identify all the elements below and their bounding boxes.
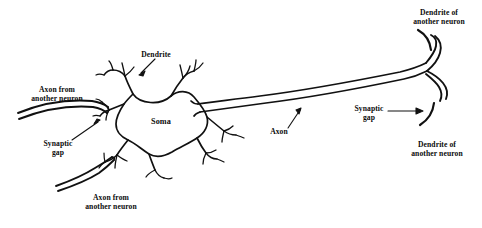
- leader-arrow-axon: [296, 108, 301, 114]
- label-dendrite: Dendrite: [130, 50, 182, 59]
- dendrite-branch: [222, 131, 224, 142]
- dendrite-branch: [236, 135, 244, 138]
- dendrite-branch: [164, 178, 172, 179]
- dendrite-branch: [180, 65, 183, 78]
- leader-arrow-synaptic-gap-right: [416, 108, 423, 114]
- dendrite-branch: [206, 150, 216, 153]
- label-synaptic-gap-left: Synaptic gap: [30, 139, 86, 158]
- dendrite-branch: [93, 115, 100, 116]
- target-dendrite-arc: [418, 30, 431, 50]
- label-dendrite-of-another-neuron-lower: Dendrite of another neuron: [394, 140, 480, 159]
- target-dendrite-arc: [420, 103, 434, 125]
- incoming-axon: [58, 160, 114, 191]
- dendrite-branch: [146, 170, 155, 177]
- dendrite-branch: [217, 159, 224, 162]
- dendrite-branch: [104, 70, 113, 75]
- dendrite-branch: [183, 66, 190, 78]
- label-soma: Soma: [140, 117, 182, 126]
- dendrite-branch: [203, 153, 206, 164]
- label-synaptic-gap-right: Synaptic gap: [344, 104, 394, 123]
- dendrite-branch: [96, 74, 104, 75]
- label-axon-from-another-neuron-upper: Axon from another neuron: [14, 85, 100, 104]
- dendrite-branch: [113, 70, 125, 76]
- dendrite-branch: [104, 153, 105, 162]
- dendrite-branch: [197, 138, 206, 153]
- label-dendrite-of-another-neuron-upper: Dendrite of another neuron: [396, 8, 482, 27]
- label-axon-from-another-neuron-lower: Axon from another neuron: [68, 193, 154, 212]
- neuron-diagram: Dendrite Soma Axon Axon from another neu…: [0, 0, 482, 228]
- leader-arrow-synaptic-gap-left: [72, 122, 98, 140]
- dendrite-branch: [224, 131, 236, 135]
- label-axon: Axon: [258, 127, 300, 136]
- dendrite-branch: [109, 61, 113, 70]
- axon-tube: [198, 63, 426, 104]
- dendrite-branch: [125, 67, 134, 76]
- dendrite-branch: [117, 140, 128, 155]
- dendrite-branch: [224, 126, 233, 131]
- dendrite-branch: [125, 76, 133, 94]
- dendrite-branch: [155, 170, 164, 178]
- dendrite-branch: [117, 155, 127, 161]
- dendrite-branch: [206, 153, 217, 159]
- dendrite-branch: [207, 117, 224, 131]
- leader-arrow-dendrite: [141, 59, 155, 73]
